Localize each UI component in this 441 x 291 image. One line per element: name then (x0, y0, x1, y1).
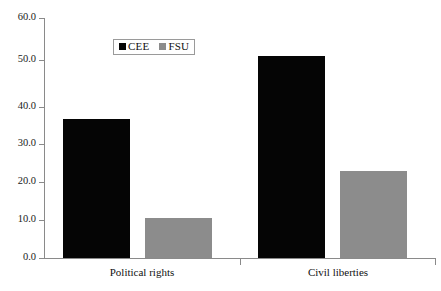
bar-cee-political-rights (63, 119, 130, 258)
bar-cee-civil-liberties (258, 56, 325, 258)
legend-item-fsu: FSU (159, 41, 189, 52)
y-tick-label-40: 40.0 (2, 101, 36, 112)
category-label-civil-liberties: Civil liberties (268, 266, 408, 278)
legend-label-fsu: FSU (168, 41, 189, 52)
bars-layer (45, 18, 436, 258)
y-tick-group-0: 0.0 (0, 252, 36, 264)
y-tick-label-10: 10.0 (2, 214, 36, 225)
legend-swatch-black-square-icon (119, 43, 126, 50)
legend-swatch-gray-square-icon (159, 43, 166, 50)
y-tick-group-30: 30.0 (0, 138, 36, 150)
x-tick-mark-center (240, 259, 241, 265)
y-tick-label-30: 30.0 (2, 138, 36, 149)
bar-fsu-civil-liberties (340, 171, 407, 258)
y-tick-group-60: 60.0 (0, 12, 36, 24)
y-tick-group-50: 50.0 (0, 54, 36, 66)
y-tick-group-10: 10.0 (0, 214, 36, 226)
bar-fsu-political-rights (145, 218, 212, 258)
bar-chart: 60.0 50.0 40.0 30.0 20.0 10.0 0.0 (0, 0, 441, 291)
y-tick-label-0: 0.0 (2, 252, 36, 263)
y-tick-label-60: 60.0 (2, 12, 36, 23)
y-tick-group-20: 20.0 (0, 176, 36, 188)
legend-label-cee: CEE (128, 41, 149, 52)
y-tick-group-40: 40.0 (0, 101, 36, 113)
legend: CEE FSU (113, 39, 195, 55)
y-tick-label-20: 20.0 (2, 176, 36, 187)
x-tick-mark-right (435, 259, 436, 265)
legend-item-cee: CEE (119, 41, 149, 52)
category-label-political-rights: Political rights (72, 266, 212, 278)
y-tick-label-50: 50.0 (2, 54, 36, 65)
